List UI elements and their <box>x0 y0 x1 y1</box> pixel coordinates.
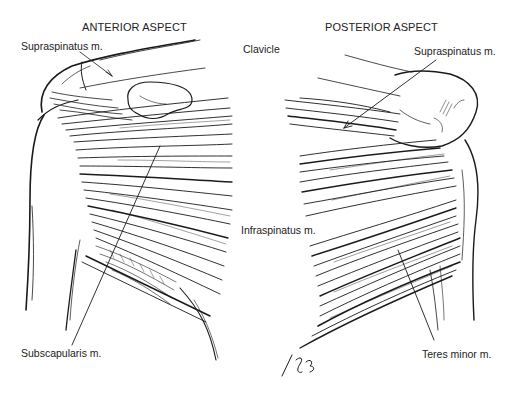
label-teres-minor: Teres minor m. <box>422 348 491 360</box>
label-subscapularis: Subscapularis m. <box>21 347 102 359</box>
anterior-aspect-title: ANTERIOR ASPECT <box>82 21 187 33</box>
shoulder-rotator-cuff-illustration: ANTERIOR ASPECT POSTERIOR ASPECT Suprasp… <box>0 0 515 408</box>
teres-minor-leader <box>398 250 434 340</box>
label-supraspinatus-posterior: Supraspinatus m. <box>414 45 496 57</box>
artist-signature <box>282 355 314 376</box>
posterior-aspect-title: POSTERIOR ASPECT <box>325 21 438 33</box>
label-supraspinatus-anterior: Supraspinatus m. <box>21 40 103 52</box>
supraspinatus-posterior-leader <box>344 60 436 128</box>
label-infraspinatus: Infraspinatus m. <box>241 224 316 236</box>
posterior-view-drawing <box>282 55 478 376</box>
label-clavicle: Clavicle <box>243 43 280 55</box>
anterior-view-drawing <box>26 40 232 360</box>
